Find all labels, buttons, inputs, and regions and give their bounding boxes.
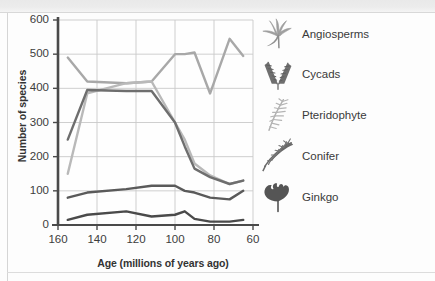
legend-item-label: Angiosperms — [302, 28, 369, 40]
x-axis-tick-label: 60 — [237, 233, 269, 245]
legend-item-angiosperms[interactable]: Angiosperms — [258, 14, 369, 54]
x-axis-tick-label: 80 — [198, 233, 230, 245]
ginkgo-leaf-icon — [258, 178, 298, 216]
chart-legend: Angiosperms Cycads — [258, 10, 435, 220]
x-axis-title: Age (millions of years ago) — [63, 257, 263, 269]
conifer-branch-icon — [258, 137, 298, 175]
y-axis-tick-label: 400 — [17, 81, 49, 93]
legend-item-label: Conifer — [302, 150, 339, 162]
y-axis-tick-label: 100 — [17, 184, 49, 196]
cycad-frond-icon — [258, 55, 298, 93]
x-axis-tick-label: 120 — [120, 233, 152, 245]
legend-item-conifer[interactable]: Conifer — [258, 136, 339, 176]
y-axis-tick-label: 0 — [17, 218, 49, 230]
x-axis-tick-label: 100 — [159, 233, 191, 245]
y-axis-tick-label: 200 — [17, 150, 49, 162]
y-axis-tick-label: 500 — [17, 47, 49, 59]
x-axis-tick-label: 160 — [42, 233, 74, 245]
angiosperm-flower-icon — [258, 15, 298, 53]
legend-item-pteridophyte[interactable]: Pteridophyte — [258, 95, 367, 135]
legend-item-ginkgo[interactable]: Ginkgo — [258, 177, 338, 217]
legend-item-label: Cycads — [302, 68, 340, 80]
species-diversity-chart: Age (millions of years ago) Number of sp… — [0, 0, 435, 281]
legend-item-cycads[interactable]: Cycads — [258, 54, 340, 94]
x-axis-tick-label: 140 — [81, 233, 113, 245]
fern-frond-icon — [258, 96, 298, 134]
legend-item-label: Ginkgo — [302, 191, 338, 203]
y-axis-tick-label: 300 — [17, 116, 49, 128]
y-axis-tick-label: 600 — [17, 13, 49, 25]
legend-item-label: Pteridophyte — [302, 109, 367, 121]
